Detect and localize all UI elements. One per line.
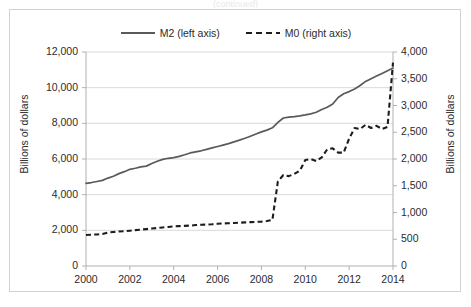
x-axis-tick-label: 2012 — [327, 273, 371, 285]
left-axis-title: Billions of dollars — [18, 84, 30, 184]
right-axis-tick-label: 500 — [401, 232, 453, 244]
x-axis-tick-label: 2008 — [239, 273, 283, 285]
left-axis-tick-label: 10,000 — [26, 81, 78, 93]
right-axis-tick-label: 1,500 — [401, 179, 453, 191]
right-axis-tick-label: 3,500 — [401, 72, 453, 84]
x-axis-tick-label: 2014 — [371, 273, 415, 285]
plot-area: Billions of dollars Billions of dollars … — [10, 10, 462, 293]
x-axis-tick-label: 2004 — [152, 273, 196, 285]
x-axis-tick-label: 2000 — [64, 273, 108, 285]
right-axis-tick-label: 3,000 — [401, 99, 453, 111]
series-line-m2 — [86, 68, 393, 183]
x-axis-tick-label: 2006 — [196, 273, 240, 285]
chart-container: (continued) M2 (left axis) M0 (right axi… — [0, 0, 471, 307]
right-axis-tick-label: 0 — [401, 259, 453, 271]
axis-lines — [82, 52, 397, 270]
clipped-header-text: (continued) — [0, 0, 471, 8]
left-axis-tick-label: 0 — [26, 259, 78, 271]
left-axis-tick-label: 12,000 — [26, 45, 78, 57]
gridlines — [86, 52, 393, 266]
x-axis-tick-label: 2002 — [108, 273, 152, 285]
right-axis-tick-label: 2,000 — [401, 152, 453, 164]
right-axis-tick-label: 4,000 — [401, 45, 453, 57]
chart-frame: M2 (left axis) M0 (right axis) Billions … — [9, 9, 461, 292]
left-axis-tick-label: 4,000 — [26, 188, 78, 200]
x-axis-tick-label: 2010 — [283, 273, 327, 285]
series-line-m0 — [86, 63, 393, 235]
left-axis-tick-label: 6,000 — [26, 152, 78, 164]
right-axis-tick-label: 1,000 — [401, 206, 453, 218]
right-axis-tick-label: 2,500 — [401, 125, 453, 137]
left-axis-tick-label: 2,000 — [26, 223, 78, 235]
left-axis-tick-label: 8,000 — [26, 116, 78, 128]
